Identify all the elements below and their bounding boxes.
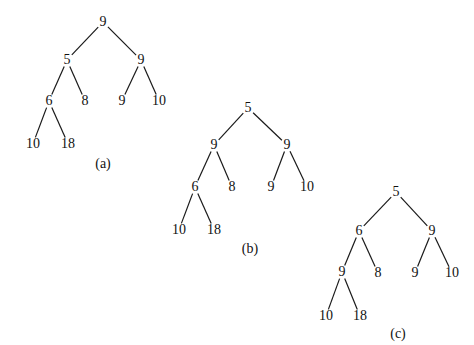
tree-edge — [219, 113, 244, 140]
tree-node: 10 — [26, 137, 40, 151]
tree-edge — [52, 66, 64, 94]
tree-node: 9 — [429, 224, 436, 238]
tree-node: 8 — [229, 180, 236, 194]
tree-node: 18 — [353, 309, 367, 323]
tree-edge — [345, 238, 357, 266]
tree-edges — [0, 0, 474, 345]
tree-node: 8 — [82, 94, 89, 108]
tree-node: 10 — [172, 223, 186, 237]
tree-node: 6 — [46, 94, 53, 108]
tree-node: 9 — [119, 94, 126, 108]
tree-node: 18 — [207, 223, 221, 237]
tree-edge — [125, 66, 138, 94]
tree-edge — [72, 27, 98, 55]
tree-node: 9 — [100, 15, 107, 29]
tree-edge — [108, 27, 136, 55]
tree-caption: (b) — [242, 242, 258, 256]
tree-edge — [70, 66, 82, 94]
tree-edge — [362, 237, 375, 266]
tree-edge — [198, 151, 211, 180]
tree-node: 9 — [412, 266, 419, 280]
tree-node: 10 — [445, 266, 459, 280]
tree-edge — [181, 194, 192, 224]
tree-edge — [35, 108, 46, 138]
tree-edge — [435, 237, 449, 266]
tree-edge — [290, 151, 304, 180]
tree-edge — [401, 197, 428, 226]
tree-edge — [274, 152, 285, 181]
tree-node: 9 — [284, 138, 291, 152]
tree-caption: (a) — [95, 157, 111, 171]
tree-node: 6 — [356, 224, 363, 238]
tree-node: 9 — [339, 265, 346, 279]
tree-node: 5 — [245, 101, 252, 115]
tree-edge — [217, 151, 229, 180]
tree-caption: (c) — [390, 327, 406, 341]
heap-diagram: 959689101018(a) 599689101018(b) 56998910… — [0, 0, 474, 345]
tree-node: 10 — [319, 309, 333, 323]
tree-node: 5 — [393, 185, 400, 199]
tree-node: 10 — [152, 94, 166, 108]
tree-node: 9 — [138, 53, 145, 67]
tree-node: 8 — [375, 266, 382, 280]
tree-edge — [418, 238, 430, 267]
tree-edge — [345, 279, 358, 310]
tree-edge — [52, 107, 65, 137]
tree-edge — [328, 279, 339, 310]
tree-edge — [198, 193, 211, 223]
tree-edge — [144, 66, 156, 94]
tree-node: 5 — [64, 53, 71, 67]
tree-node: 6 — [192, 180, 199, 194]
tree-node: 9 — [268, 180, 275, 194]
tree-node: 10 — [300, 180, 314, 194]
tree-node: 9 — [211, 138, 218, 152]
tree-edge — [253, 113, 282, 140]
tree-node: 18 — [61, 137, 75, 151]
tree-edge — [364, 197, 391, 226]
